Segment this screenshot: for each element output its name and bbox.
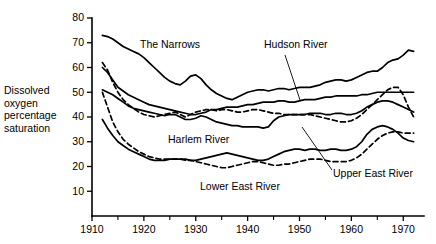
x-tick-label: 1970 — [392, 223, 416, 235]
x-tick-label: 1950 — [288, 223, 312, 235]
y-tick-label: 80 — [72, 11, 84, 23]
data-series-group — [102, 35, 413, 167]
line-chart-plot: 1020304050607080 19101920193019401950196… — [0, 0, 436, 244]
x-tick-label: 1930 — [184, 223, 208, 235]
x-tick-label: 1920 — [132, 223, 156, 235]
y-tick-label: 20 — [72, 160, 84, 172]
annotation-leader-line — [302, 127, 332, 170]
annotation-leader-line — [285, 55, 300, 100]
x-axis-ticks: 1910192019301940195019601970 — [80, 216, 415, 235]
x-tick-label: 1960 — [340, 223, 364, 235]
series-label-harlem-river: Harlem River — [168, 133, 230, 145]
y-tick-label: 60 — [72, 61, 84, 73]
series-line-harlem-river-lower — [102, 119, 413, 160]
series-line-upper-east-river — [102, 63, 413, 122]
x-tick-label: 1940 — [236, 223, 260, 235]
series-label-lower-east-river: Lower East River — [200, 180, 280, 192]
y-tick-label: 10 — [72, 185, 84, 197]
series-label-upper-east-river: Upper East River — [333, 167, 413, 179]
x-tick-label: 1910 — [80, 223, 104, 235]
y-tick-label: 70 — [72, 36, 84, 48]
y-tick-label: 40 — [72, 110, 84, 122]
y-tick-label: 50 — [72, 86, 84, 98]
chart-container: Dissolved oxygen percentage saturation 1… — [0, 0, 436, 244]
y-axis-ticks: 1020304050607080 — [72, 11, 92, 196]
series-label-hudson-river: Hudson River — [264, 38, 328, 50]
y-tick-label: 30 — [72, 135, 84, 147]
series-label-the-narrows: The Narrows — [140, 38, 200, 50]
